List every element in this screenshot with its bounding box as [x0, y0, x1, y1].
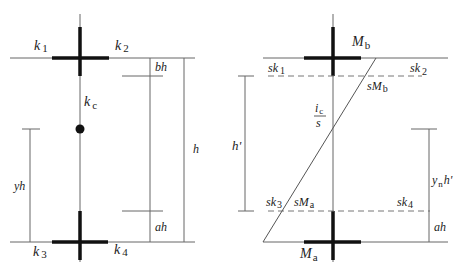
label-sk3: sk3 — [266, 195, 282, 210]
moment-diagram-line — [263, 58, 376, 242]
left-diagram: k1 k2 kc bh ah h yh k3 k4 — [10, 14, 199, 262]
label-ah: ah — [155, 220, 167, 234]
label-ah-right: ah — [434, 220, 446, 234]
inflection-point-dot — [76, 125, 85, 134]
label-k1: k1 — [34, 38, 48, 54]
label-kc: kc — [84, 94, 97, 111]
label-k2: k2 — [115, 38, 129, 54]
label-sk2: sk2 — [410, 61, 427, 77]
label-bh: bh — [155, 60, 167, 74]
label-h: h — [193, 142, 199, 156]
label-Ma: Ma — [299, 246, 318, 263]
column-frame-diagram: k1 k2 kc bh ah h yh k3 k4 Mb sk1 — [0, 0, 459, 266]
label-s: s — [316, 116, 321, 130]
label-Mb: Mb — [351, 34, 371, 51]
label-sMb: sMb — [367, 79, 388, 94]
label-k3: k3 — [33, 244, 47, 260]
label-h-prime: h' — [232, 138, 242, 153]
label-k4: k4 — [114, 242, 128, 258]
label-yn-h-prime: ynh' — [431, 173, 453, 189]
label-sMa: sMa — [294, 195, 315, 210]
label-sk1: sk1 — [268, 61, 285, 76]
label-sk4: sk4 — [397, 195, 413, 210]
label-yh: yh — [13, 179, 25, 193]
right-diagram: Mb sk1 sk2 sMb ic s h' ynh' sk3 sMa sk4 … — [232, 14, 453, 263]
label-ic: ic — [315, 101, 323, 116]
label-ic-over-s: ic s — [314, 101, 326, 130]
